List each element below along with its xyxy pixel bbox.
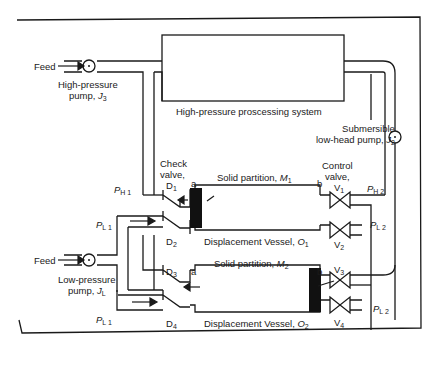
feed-label-bottom: Feed — [34, 255, 56, 266]
v1-label: V1 — [334, 182, 344, 194]
processing-system-label: High-pressure proscessing system — [176, 106, 322, 117]
v3-label: V3 — [334, 264, 344, 276]
control-valve-v1 — [330, 192, 350, 208]
control-valve-label: Control valve, — [322, 160, 353, 182]
a2-label: a — [191, 266, 196, 277]
ph1-label: PH 1 — [114, 184, 131, 196]
pl2-bottom-label: PL 2 — [373, 303, 389, 315]
pl2-top-label: PL 2 — [370, 219, 386, 231]
pl1-top-label: PL 1 — [96, 219, 112, 231]
v2-label: V2 — [334, 239, 344, 251]
partition-m1-label: Solid partition, M1 — [217, 172, 292, 184]
v4-label: V4 — [334, 317, 344, 329]
vessel-2 — [190, 265, 320, 312]
vessel-o1-label: Displacement Vessel, O1 — [204, 236, 309, 248]
d3-label: D3 — [166, 266, 177, 278]
control-valve-v2 — [330, 222, 350, 238]
d4-label: D4 — [166, 318, 177, 330]
vessel-1 — [190, 185, 320, 230]
d1-label: D1 — [166, 180, 177, 192]
vessel-o2-label: Displacement Vessel, O2 — [204, 318, 309, 330]
pl1-bottom-label: PL 1 — [96, 314, 112, 326]
check-valve-label: Check valve, — [160, 158, 187, 180]
solid-partition-m1 — [190, 188, 202, 228]
processing-system-box — [162, 35, 344, 101]
b2-label: b — [317, 266, 322, 277]
a1-label: a — [191, 178, 196, 189]
hp-pump-label: High-pressure pump, J3 — [58, 79, 118, 102]
partition-m2-label: Solid partition, M2 — [214, 258, 289, 270]
feed-label-top: Feed — [34, 61, 56, 72]
d2-label: D2 — [166, 236, 177, 248]
ph2-label: PH 2 — [367, 183, 384, 195]
submersible-pump-label: Submersible low-head pump, J2 — [316, 123, 395, 146]
lp-pump-label: Low-pressure pump, JL — [58, 274, 116, 297]
control-valve-v4 — [330, 297, 350, 313]
